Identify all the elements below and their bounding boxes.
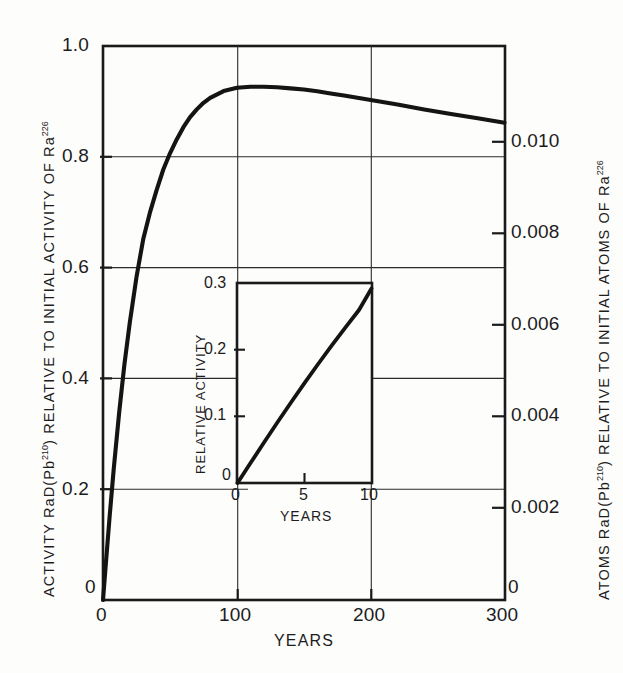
inset-x-tick-10: 10 [360, 486, 378, 504]
main-x-axis-title: YEARS [274, 632, 334, 650]
main-x-tick-100: 100 [219, 604, 251, 626]
main-y-left-tick-0.6: 0.6 [62, 256, 89, 278]
main-y-right-tick-0.002: 0.002 [511, 496, 560, 518]
main-y-right-tick-0.004: 0.004 [511, 404, 560, 426]
main-y-left-tick-0: 0 [85, 576, 96, 598]
inset-y-tick-0: 0 [222, 466, 231, 484]
main-y-right-tick-0.010: 0.010 [511, 130, 560, 152]
main-y-left-tick-1.0: 1.0 [62, 34, 89, 56]
inset-x-axis-title: YEARS [280, 508, 332, 524]
plot-svg [0, 0, 623, 673]
main-y-left-tick-0.8: 0.8 [62, 145, 89, 167]
main-y-right-tick-0.008: 0.008 [511, 221, 560, 243]
inset-y-axis-title: RELATIVE ACTIVITY [193, 334, 208, 474]
main-y-right-tick-0: 0 [508, 576, 519, 598]
main-x-tick-200: 200 [353, 604, 385, 626]
main-y-left-tick-0.4: 0.4 [62, 367, 89, 389]
main-y-left-axis-title: ACTIVITY RaD(Pb210) RELATIVE TO INITIAL … [40, 121, 57, 597]
inset-x-tick-5: 5 [299, 486, 308, 504]
main-y-left-tick-0.2: 0.2 [62, 478, 89, 500]
inset-y-tick-0.3: 0.3 [204, 274, 226, 292]
main-x-tick-0: 0 [96, 604, 107, 626]
main-y-right-axis-title: ATOMS RaD(Pb210) RELATIVE TO INITIAL ATO… [595, 160, 612, 600]
main-x-tick-300: 300 [486, 604, 518, 626]
inset-x-tick-0: 0 [231, 486, 240, 504]
main-y-right-tick-0.006: 0.006 [511, 313, 560, 335]
figure-canvas: 1.0 0.8 0.6 0.4 0.2 0 0.010 0.008 0.006 … [0, 0, 623, 673]
